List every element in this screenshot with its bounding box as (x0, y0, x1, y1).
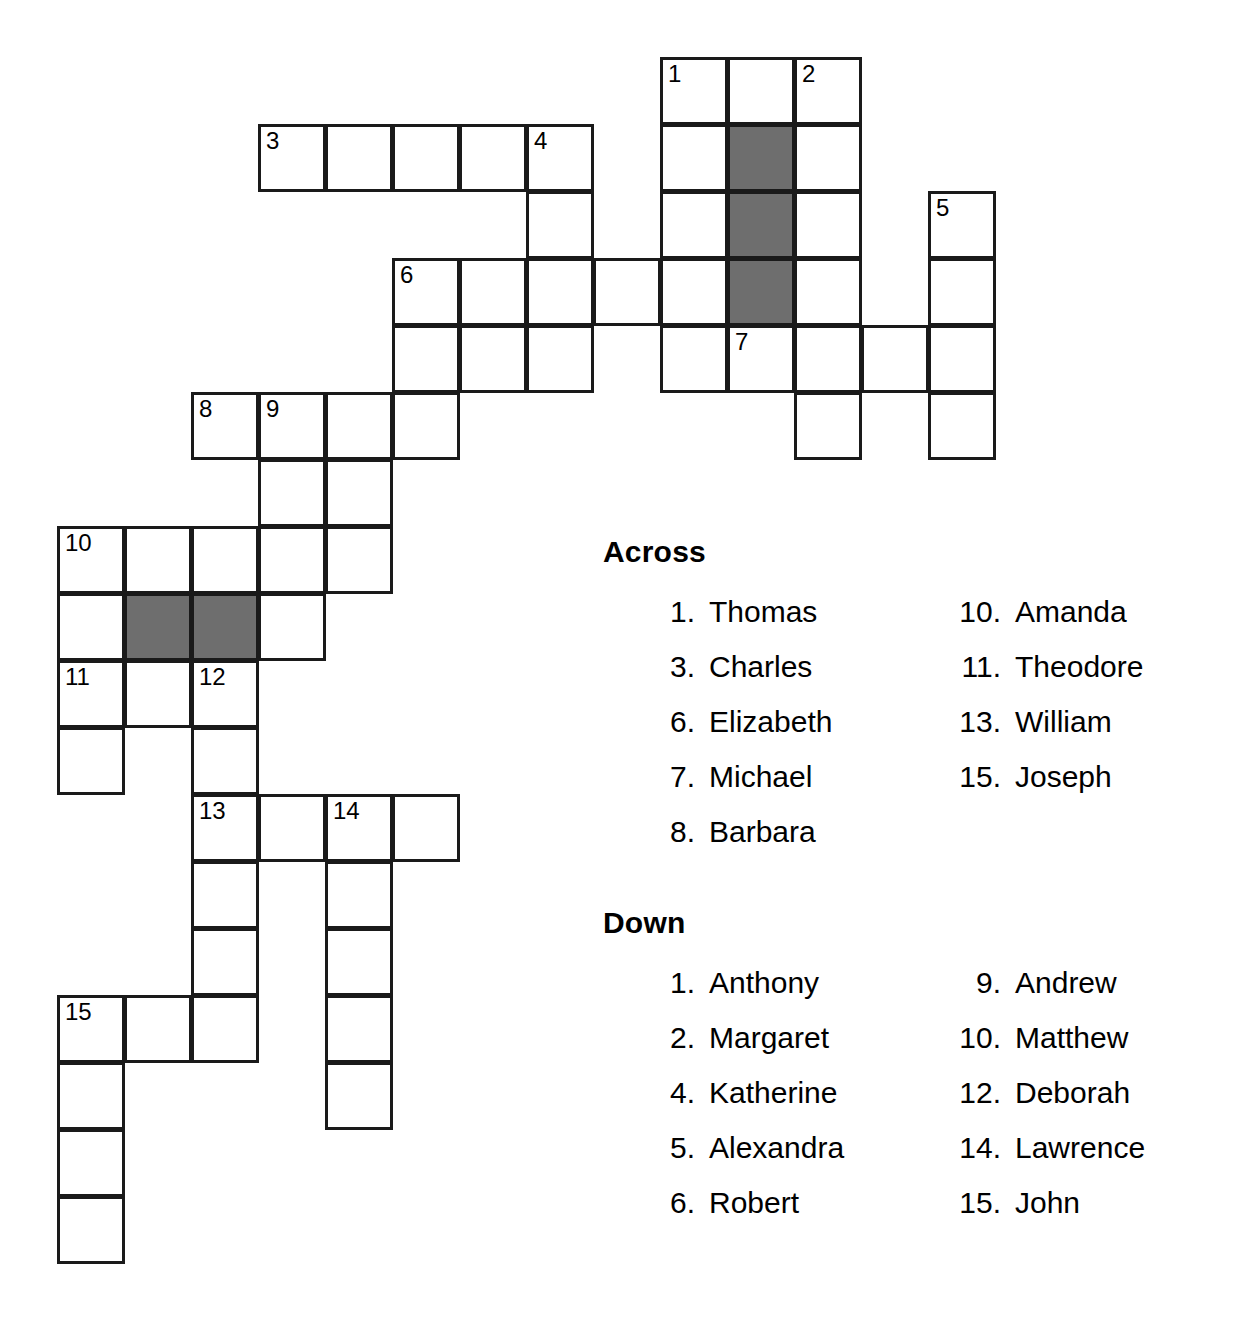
crossword-cell[interactable] (660, 258, 728, 326)
crossword-cell[interactable] (660, 325, 728, 393)
clue-number: 9. (939, 955, 1001, 1010)
clue-item-across-3[interactable]: 3.Charles (633, 639, 913, 694)
clue-item-down-6[interactable]: 6.Robert (633, 1175, 913, 1230)
crossword-cell[interactable] (124, 526, 192, 594)
clue-item-down-5[interactable]: 5.Alexandra (633, 1120, 913, 1175)
crossword-cell[interactable] (727, 57, 795, 125)
clue-item-across-6[interactable]: 6.Elizabeth (633, 694, 913, 749)
clue-item-down-1[interactable]: 1.Anthony (633, 955, 913, 1010)
crossword-cell[interactable] (794, 191, 862, 259)
crossword-cell[interactable]: 7 (727, 325, 795, 393)
crossword-cell[interactable] (660, 124, 728, 192)
crossword-cell[interactable] (325, 124, 393, 192)
clue-item-down-12[interactable]: 12.Deborah (939, 1065, 1223, 1120)
crossword-cell[interactable] (325, 459, 393, 527)
crossword-cell[interactable] (392, 392, 460, 460)
crossword-cell[interactable]: 2 (794, 57, 862, 125)
crossword-cell[interactable] (459, 325, 527, 393)
crossword-cell[interactable] (794, 258, 862, 326)
crossword-cell[interactable] (124, 995, 192, 1063)
crossword-cell[interactable] (325, 861, 393, 929)
crossword-cell[interactable]: 11 (57, 660, 125, 728)
crossword-cell[interactable] (459, 258, 527, 326)
crossword-cell[interactable] (191, 928, 259, 996)
crossword-cell[interactable]: 10 (57, 526, 125, 594)
crossword-cell[interactable] (325, 995, 393, 1063)
crossword-cell-number: 10 (65, 529, 92, 557)
crossword-cell[interactable] (459, 124, 527, 192)
clue-text: Andrew (1001, 955, 1117, 1010)
crossword-cell[interactable] (258, 593, 326, 661)
crossword-cell[interactable] (57, 1129, 125, 1197)
crossword-cell[interactable] (57, 1062, 125, 1130)
crossword-cell[interactable] (57, 1196, 125, 1264)
clue-text: Michael (695, 749, 812, 804)
clue-text: Thomas (695, 584, 817, 639)
crossword-cell[interactable] (794, 325, 862, 393)
crossword-cell-number: 4 (534, 127, 547, 155)
crossword-cell[interactable] (593, 258, 661, 326)
clue-item-down-10[interactable]: 10.Matthew (939, 1010, 1223, 1065)
clue-item-across-10[interactable]: 10.Amanda (939, 584, 1223, 639)
crossword-cell[interactable]: 8 (191, 392, 259, 460)
crossword-cell-number: 9 (266, 395, 279, 423)
crossword-cell[interactable]: 9 (258, 392, 326, 460)
crossword-cell[interactable] (191, 727, 259, 795)
across-heading: Across (603, 530, 1223, 574)
crossword-cell[interactable] (794, 392, 862, 460)
clue-item-across-13[interactable]: 13.William (939, 694, 1223, 749)
clue-item-across-15[interactable]: 15.Joseph (939, 749, 1223, 804)
crossword-cell[interactable]: 14 (325, 794, 393, 862)
crossword-cell[interactable] (392, 794, 460, 862)
clue-item-down-14[interactable]: 14.Lawrence (939, 1120, 1223, 1175)
clue-text: Charles (695, 639, 812, 694)
clue-number: 11. (939, 639, 1001, 694)
crossword-cell[interactable] (928, 258, 996, 326)
crossword-cell[interactable] (191, 995, 259, 1063)
clue-number: 2. (633, 1010, 695, 1065)
crossword-blocked-cell (727, 191, 795, 259)
crossword-cell[interactable] (325, 526, 393, 594)
crossword-cell[interactable] (526, 325, 594, 393)
crossword-cell[interactable] (124, 660, 192, 728)
crossword-cell[interactable] (325, 1062, 393, 1130)
crossword-cell[interactable] (325, 392, 393, 460)
crossword-cell[interactable] (392, 124, 460, 192)
crossword-cell[interactable]: 6 (392, 258, 460, 326)
crossword-cell[interactable] (392, 325, 460, 393)
clue-item-down-4[interactable]: 4.Katherine (633, 1065, 913, 1120)
crossword-cell[interactable]: 3 (258, 124, 326, 192)
crossword-cell[interactable] (526, 258, 594, 326)
crossword-cell[interactable] (660, 191, 728, 259)
crossword-cell[interactable] (794, 124, 862, 192)
crossword-cell[interactable] (258, 459, 326, 527)
clue-item-down-2[interactable]: 2.Margaret (633, 1010, 913, 1065)
down-heading: Down (603, 901, 1223, 945)
crossword-cell[interactable]: 15 (57, 995, 125, 1063)
crossword-cell[interactable] (325, 928, 393, 996)
crossword-cell[interactable] (928, 325, 996, 393)
crossword-cell[interactable] (57, 593, 125, 661)
crossword-cell[interactable] (928, 392, 996, 460)
clue-item-down-15[interactable]: 15.John (939, 1175, 1223, 1230)
clue-number: 8. (633, 804, 695, 859)
crossword-cell[interactable] (191, 861, 259, 929)
crossword-cell[interactable] (861, 325, 929, 393)
crossword-cell[interactable]: 13 (191, 794, 259, 862)
clue-text: Robert (695, 1175, 799, 1230)
clue-item-across-7[interactable]: 7.Michael (633, 749, 913, 804)
clue-item-down-9[interactable]: 9.Andrew (939, 955, 1223, 1010)
clue-item-across-11[interactable]: 11.Theodore (939, 639, 1223, 694)
crossword-cell[interactable]: 5 (928, 191, 996, 259)
crossword-cell[interactable]: 12 (191, 660, 259, 728)
crossword-cell[interactable] (258, 526, 326, 594)
crossword-cell[interactable]: 4 (526, 124, 594, 192)
clue-item-across-8[interactable]: 8.Barbara (633, 804, 913, 859)
clue-item-across-1[interactable]: 1.Thomas (633, 584, 913, 639)
crossword-cell[interactable] (57, 727, 125, 795)
clue-number: 12. (939, 1065, 1001, 1120)
crossword-cell[interactable] (526, 191, 594, 259)
crossword-cell[interactable] (258, 794, 326, 862)
crossword-cell[interactable] (191, 526, 259, 594)
crossword-cell[interactable]: 1 (660, 57, 728, 125)
